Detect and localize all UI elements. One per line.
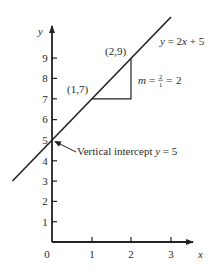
diagram-canvas: 1 2 3 4 5 6 7 8 9 0 1 2 3 y x (1,7) (2,9… <box>0 0 216 274</box>
slope-annotation: m = 2 1 = 2 <box>138 73 182 88</box>
equals-sign-2: = <box>166 74 172 86</box>
y-tick-label: 9 <box>42 52 48 64</box>
equation-label: y = 2x + 5 <box>159 35 205 47</box>
y-tick-label: 4 <box>42 155 48 167</box>
y-tick-label: 2 <box>42 195 48 207</box>
slope-m-label: m <box>138 74 146 86</box>
y-axis-label: y <box>37 25 43 37</box>
intercept-pointer-arrow <box>55 142 76 153</box>
x-tick-labels: 0 1 2 3 <box>44 248 174 260</box>
intercept-annotation: Vertical intercept y = 5 <box>77 145 178 157</box>
slope-numerator: 2 <box>159 73 162 80</box>
point-label-2-9: (2,9) <box>105 45 126 58</box>
y-tick-label: 6 <box>42 113 48 125</box>
x-tick-label: 0 <box>44 248 50 260</box>
intercept-value: = 5 <box>160 145 178 157</box>
y-tick-labels: 1 2 3 4 5 6 7 8 9 <box>42 52 48 228</box>
x-tick-label: 2 <box>128 248 134 260</box>
slope-denominator: 1 <box>159 81 162 88</box>
slope-result: 2 <box>176 74 182 86</box>
x-tick-label: 3 <box>168 248 174 260</box>
x-axis-label: x <box>197 248 203 260</box>
x-tick-label: 1 <box>89 248 95 260</box>
y-tick-label: 1 <box>42 216 48 228</box>
y-tick-label: 8 <box>42 72 48 84</box>
intercept-text: Vertical intercept <box>77 145 155 157</box>
equals-sign: = <box>149 74 155 86</box>
slope-intercept-diagram: 1 2 3 4 5 6 7 8 9 0 1 2 3 y x (1,7) (2,9… <box>0 0 216 274</box>
y-tick-label: 7 <box>42 93 48 105</box>
y-tick-label: 3 <box>42 175 48 187</box>
point-label-1-7: (1,7) <box>67 83 88 96</box>
